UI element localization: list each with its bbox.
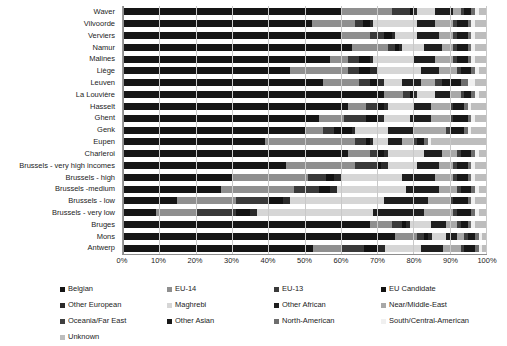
legend-label: Other European xyxy=(68,301,121,309)
x-tick-label: 0% xyxy=(117,256,128,265)
bar-segment xyxy=(355,127,388,134)
legend-label: Unknown xyxy=(68,333,99,341)
bar-segment xyxy=(123,103,348,110)
stacked-bar xyxy=(123,44,486,51)
bar-segment xyxy=(370,150,377,157)
x-axis-line xyxy=(122,254,487,255)
bar-row xyxy=(123,136,486,148)
bar-segment xyxy=(326,174,333,181)
legend-item[interactable]: Near/Middle-East xyxy=(381,301,488,309)
bar-segment xyxy=(446,233,457,240)
bar-segment xyxy=(431,115,449,122)
bar-segment xyxy=(384,197,428,204)
bar-segment xyxy=(421,245,443,252)
stacked-bar xyxy=(123,150,486,157)
x-tick-label: 40% xyxy=(260,256,275,265)
stacked-bar xyxy=(123,162,486,169)
bar-segment xyxy=(341,174,403,181)
bar-segment xyxy=(381,162,388,169)
bar-segment xyxy=(123,79,323,86)
bar-segment xyxy=(123,162,286,169)
bar-series-container xyxy=(123,6,486,254)
legend-item[interactable]: Unknown xyxy=(60,333,167,341)
bar-segment xyxy=(388,138,403,145)
bar-segment xyxy=(464,245,475,252)
bar-segment xyxy=(366,115,377,122)
bar-segment xyxy=(355,138,366,145)
legend-swatch-icon xyxy=(167,303,172,308)
legend-swatch-icon xyxy=(274,319,279,324)
y-axis-label: Vilvoorde xyxy=(0,18,119,30)
legend-item[interactable]: Maghrebi xyxy=(167,301,274,309)
bar-segment xyxy=(290,67,348,74)
bar-segment xyxy=(123,245,313,252)
bar-segment xyxy=(388,127,413,134)
bar-segment xyxy=(341,32,370,39)
bar-segment xyxy=(348,67,359,74)
stacked-bar xyxy=(123,221,486,228)
legend-item[interactable]: Other European xyxy=(60,301,167,309)
bar-segment xyxy=(457,162,468,169)
bar-segment xyxy=(373,20,417,27)
bar-segment xyxy=(435,174,453,181)
y-axis-label: Waver xyxy=(0,6,119,18)
y-axis-label: Brussels - low xyxy=(0,195,119,207)
bar-row xyxy=(123,219,486,231)
legend-item[interactable]: EU-13 xyxy=(274,285,381,293)
bar-segment xyxy=(475,162,486,169)
bar-segment xyxy=(377,150,384,157)
bar-segment xyxy=(384,91,402,98)
bar-segment xyxy=(410,115,432,122)
legend-item[interactable]: South/Central-American xyxy=(381,317,488,325)
legend-label: EU-13 xyxy=(282,285,303,293)
bar-segment xyxy=(265,138,356,145)
bar-segment xyxy=(403,91,410,98)
y-axis-label: Leuven xyxy=(0,77,119,89)
bar-row xyxy=(123,89,486,101)
bar-segment xyxy=(479,91,486,98)
legend-label: North-American xyxy=(282,317,335,325)
bar-segment xyxy=(370,79,377,86)
y-axis-label: Eupen xyxy=(0,136,119,148)
chart-legend: BelgianEU-14EU-13EU CandidateOther Europ… xyxy=(60,281,490,345)
bar-segment xyxy=(156,209,196,216)
legend-item[interactable]: Belgian xyxy=(60,285,167,293)
bar-segment xyxy=(319,186,330,193)
legend-swatch-icon xyxy=(60,303,65,308)
bar-segment xyxy=(417,233,424,240)
legend-item[interactable]: Other Asian xyxy=(167,317,274,325)
y-axis-label: La Louvière xyxy=(0,89,119,101)
bar-segment xyxy=(286,162,355,169)
bar-segment xyxy=(479,150,486,157)
legend-item[interactable]: North-American xyxy=(274,317,381,325)
bar-segment xyxy=(378,245,385,252)
bar-segment xyxy=(475,20,486,27)
legend-item[interactable]: Other African xyxy=(274,301,381,309)
bar-segment xyxy=(384,115,409,122)
legend-label: Near/Middle-East xyxy=(389,301,447,309)
bar-segment xyxy=(475,79,486,86)
plot-area xyxy=(122,6,487,254)
bar-segment xyxy=(421,67,439,74)
bar-segment xyxy=(450,91,461,98)
x-tick-label: 10% xyxy=(151,256,166,265)
bar-segment xyxy=(305,127,323,134)
bar-row xyxy=(123,65,486,77)
bar-segment xyxy=(363,20,370,27)
bar-segment xyxy=(479,67,486,74)
legend-item[interactable]: EU Candidate xyxy=(381,285,488,293)
bar-segment xyxy=(453,197,468,204)
bar-segment xyxy=(428,197,450,204)
legend-item[interactable]: EU-14 xyxy=(167,285,274,293)
bar-segment xyxy=(123,174,232,181)
bar-segment xyxy=(402,44,424,51)
bar-segment xyxy=(388,162,417,169)
bar-segment xyxy=(384,79,402,86)
bar-segment xyxy=(377,79,384,86)
bar-segment xyxy=(123,233,395,240)
x-tick-label: 30% xyxy=(224,256,239,265)
legend-item[interactable]: Oceania/Far East xyxy=(60,317,167,325)
x-tick-label: 50% xyxy=(297,256,312,265)
bar-segment xyxy=(461,79,468,86)
stacked-bar xyxy=(123,20,486,27)
